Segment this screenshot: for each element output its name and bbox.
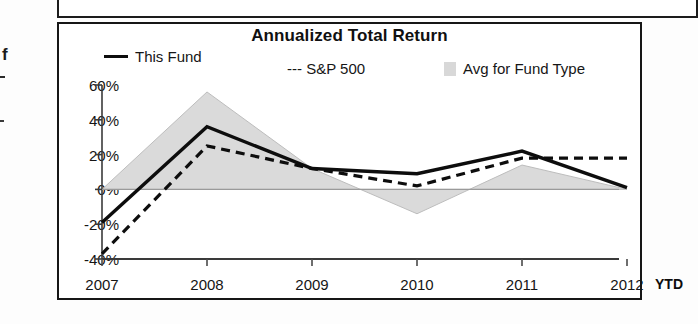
x-tick-label: 2009 (295, 276, 328, 293)
margin-rule-lower (0, 120, 4, 122)
x-tick-label: 2007 (85, 276, 118, 293)
margin-letter-fragment: f (2, 46, 8, 63)
x-tick-label: 2008 (190, 276, 223, 293)
x-tick-label: 2011 (506, 276, 538, 293)
panel-above-chart (57, 0, 698, 18)
annualized-total-return-chart-panel: Annualized Total Return This Fund --- S&… (57, 22, 642, 300)
x-tick-label: 2010 (400, 276, 433, 293)
chart-plot-svg (59, 24, 644, 302)
x-axis-ytd-label: YTD (655, 276, 683, 292)
margin-rule-upper (0, 76, 5, 78)
plot-area: 60%40%20%0%-20%-40% 20072008200920102011… (59, 24, 644, 302)
x-tick-label: 2012 (610, 276, 643, 293)
